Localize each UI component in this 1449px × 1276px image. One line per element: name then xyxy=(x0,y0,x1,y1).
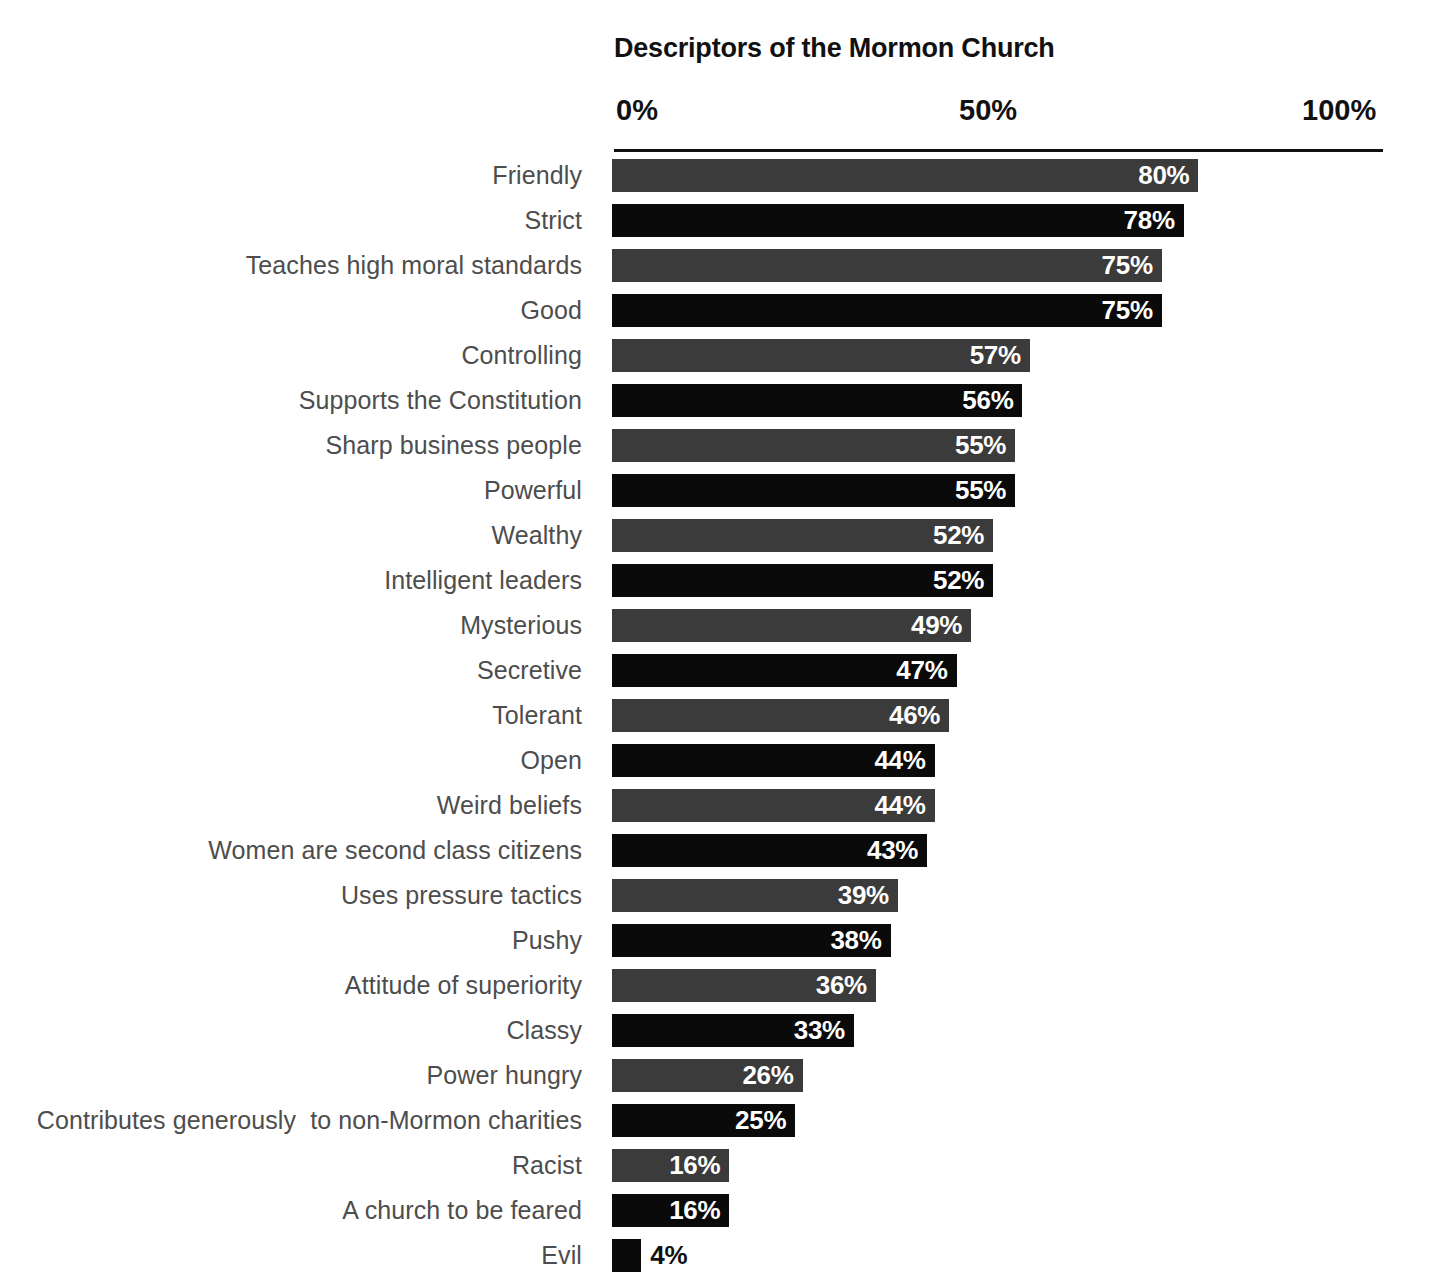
bar-row: Evil4% xyxy=(0,1239,1449,1276)
bar: 80% xyxy=(612,159,1198,192)
bar-track: 78% xyxy=(612,204,1412,237)
bar: 16% xyxy=(612,1194,729,1227)
bar-track: 47% xyxy=(612,654,1412,687)
bar-row: Good75% xyxy=(0,294,1449,339)
x-axis-line xyxy=(614,149,1383,152)
bar-category-label: Mysterious xyxy=(460,609,582,642)
x-axis-tick-0: 0% xyxy=(616,96,658,125)
bar-value-label: 78% xyxy=(1124,204,1175,237)
bar-row: Friendly80% xyxy=(0,159,1449,204)
bar-row: Pushy38% xyxy=(0,924,1449,969)
bar-category-label: Women are second class citizens xyxy=(208,834,582,867)
bar-row: Sharp business people55% xyxy=(0,429,1449,474)
bar-row: Strict78% xyxy=(0,204,1449,249)
bar-category-label: Power hungry xyxy=(427,1059,582,1092)
bar-track: 55% xyxy=(612,429,1412,462)
bar-category-label: Open xyxy=(520,744,582,777)
bar: 47% xyxy=(612,654,957,687)
plot-area: Friendly80%Strict78%Teaches high moral s… xyxy=(0,159,1449,1276)
bar-row: Teaches high moral standards75% xyxy=(0,249,1449,294)
bar-track: 4% xyxy=(612,1239,1412,1272)
bar-track: 44% xyxy=(612,789,1412,822)
bar: 43% xyxy=(612,834,927,867)
bar-category-label: Weird beliefs xyxy=(437,789,582,822)
bar: 52% xyxy=(612,519,993,552)
bar-row: Open44% xyxy=(0,744,1449,789)
bar: 75% xyxy=(612,294,1162,327)
bar-track: 25% xyxy=(612,1104,1412,1137)
bar-category-label: Tolerant xyxy=(492,699,582,732)
x-axis-tick-labels: 0% 50% 100% xyxy=(0,96,1449,136)
bar: 4% xyxy=(612,1239,641,1272)
bar-value-label: 36% xyxy=(816,969,867,1002)
bar: 55% xyxy=(612,429,1015,462)
bar-track: 57% xyxy=(612,339,1412,372)
bar-value-label: 43% xyxy=(867,834,918,867)
bar-category-label: A church to be feared xyxy=(342,1194,582,1227)
bar-value-label: 57% xyxy=(970,339,1021,372)
bar-row: Supports the Constitution56% xyxy=(0,384,1449,429)
bar-value-label: 47% xyxy=(896,654,947,687)
bar-value-label: 80% xyxy=(1138,159,1189,192)
bar-track: 26% xyxy=(612,1059,1412,1092)
bar-category-label: Strict xyxy=(524,204,582,237)
bar-category-label: Teaches high moral standards xyxy=(246,249,582,282)
bar-category-label: Sharp business people xyxy=(326,429,582,462)
bar-category-label: Pushy xyxy=(512,924,582,957)
bar-category-label: Friendly xyxy=(492,159,582,192)
bar-row: Mysterious49% xyxy=(0,609,1449,654)
bar-value-label: 16% xyxy=(669,1149,720,1182)
bar: 16% xyxy=(612,1149,729,1182)
bar: 36% xyxy=(612,969,876,1002)
bar-value-label: 44% xyxy=(874,789,925,822)
bar-row: Wealthy52% xyxy=(0,519,1449,564)
bar-category-label: Controlling xyxy=(461,339,582,372)
bar: 38% xyxy=(612,924,891,957)
bar-track: 55% xyxy=(612,474,1412,507)
bar-track: 80% xyxy=(612,159,1412,192)
bar-value-label: 46% xyxy=(889,699,940,732)
bar-category-label: Classy xyxy=(506,1014,582,1047)
bar-value-label: 52% xyxy=(933,519,984,552)
bar-value-label: 25% xyxy=(735,1104,786,1137)
bar-value-label: 56% xyxy=(962,384,1013,417)
bar: 25% xyxy=(612,1104,795,1137)
bar-category-label: Evil xyxy=(541,1239,582,1272)
bar: 46% xyxy=(612,699,949,732)
bar-value-label: 49% xyxy=(911,609,962,642)
bar-track: 49% xyxy=(612,609,1412,642)
bar-row: Tolerant46% xyxy=(0,699,1449,744)
bar-row: Controlling57% xyxy=(0,339,1449,384)
bar-track: 56% xyxy=(612,384,1412,417)
bar-value-label: 38% xyxy=(830,924,881,957)
bar: 39% xyxy=(612,879,898,912)
bar-track: 16% xyxy=(612,1149,1412,1182)
bar: 44% xyxy=(612,744,935,777)
bar: 78% xyxy=(612,204,1184,237)
bar-row: Racist16% xyxy=(0,1149,1449,1194)
bar-value-label: 75% xyxy=(1102,294,1153,327)
bar-track: 33% xyxy=(612,1014,1412,1047)
bar-value-label: 52% xyxy=(933,564,984,597)
bar-value-label: 26% xyxy=(742,1059,793,1092)
bar-category-label: Intelligent leaders xyxy=(384,564,582,597)
bar-category-label: Contributes generously to non-Mormon cha… xyxy=(37,1104,582,1137)
bar: 49% xyxy=(612,609,971,642)
bar: 56% xyxy=(612,384,1022,417)
bar-row: Weird beliefs44% xyxy=(0,789,1449,834)
bar-track: 75% xyxy=(612,294,1412,327)
bar-value-label: 16% xyxy=(669,1194,720,1227)
bar-track: 44% xyxy=(612,744,1412,777)
bar: 75% xyxy=(612,249,1162,282)
bar-row: Powerful55% xyxy=(0,474,1449,519)
bar-row: Power hungry26% xyxy=(0,1059,1449,1104)
bar: 33% xyxy=(612,1014,854,1047)
bar-value-label: 4% xyxy=(650,1239,687,1272)
bar-track: 39% xyxy=(612,879,1412,912)
bar-category-label: Attitude of superiority xyxy=(345,969,582,1002)
bar-row: Attitude of superiority36% xyxy=(0,969,1449,1014)
bar-value-label: 33% xyxy=(794,1014,845,1047)
bar-category-label: Wealthy xyxy=(491,519,582,552)
bar: 55% xyxy=(612,474,1015,507)
